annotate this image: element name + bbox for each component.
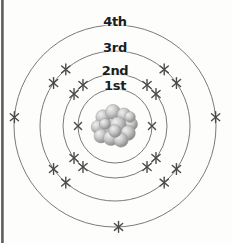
shell-label-2nd: 2nd: [102, 64, 129, 77]
electron-shell-4-1: [211, 112, 219, 123]
shell-label-4th: 4th: [103, 15, 127, 28]
nucleus: [91, 104, 137, 147]
electron-shell-2-0: [79, 80, 87, 91]
electron-shell-2-6: [143, 162, 151, 173]
nucleon-13: [125, 112, 136, 123]
nucleon-12: [99, 118, 110, 129]
electron-shell-2-3: [143, 80, 151, 91]
atom-diagram-figure: 4th 3rd 2nd 1st: [0, 0, 232, 243]
electron-shell-3-3: [160, 64, 168, 75]
nucleon-11: [109, 125, 122, 138]
bohr-model-svg: [0, 0, 232, 243]
electron-shell-3-5: [62, 177, 70, 188]
electron-shell-4-0: [10, 112, 18, 123]
electron-shell-2-5: [79, 162, 87, 173]
electron-shell-3-6: [160, 177, 168, 188]
electron-shell-3-0: [62, 64, 70, 75]
shell-label-1st: 1st: [104, 79, 126, 92]
shell-label-3rd: 3rd: [103, 41, 127, 54]
